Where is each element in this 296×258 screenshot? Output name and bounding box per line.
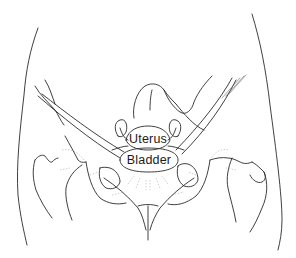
pelvic-floor-texture: [128, 176, 168, 190]
right-obturator-foramen: [177, 164, 198, 187]
bladder-label: Bladder: [127, 153, 172, 167]
right-femur-shaft-inner: [227, 158, 236, 222]
body-outline-right: [252, 14, 282, 250]
right-femur-shaft-outer: [250, 172, 267, 232]
left-femur-shaft-outer: [33, 160, 52, 218]
body-outline-left: [17, 28, 38, 245]
left-femur-head-outline: [35, 155, 58, 162]
right-sacroiliac-texture: [172, 149, 236, 195]
left-ovary: [115, 120, 127, 137]
sigmoid-loop: [164, 76, 212, 113]
pelvis-illustration: Uterus Bladder: [0, 0, 296, 258]
left-femur-shaft-inner: [66, 165, 82, 220]
left-pelvic-floor: [104, 178, 146, 230]
colon-fold: [150, 90, 152, 110]
left-obturator-foramen: [99, 167, 120, 189]
bowel-right: [176, 104, 204, 130]
left-ilium-wing: [65, 136, 86, 162]
right-ligament-fibers: [222, 75, 246, 98]
uterus-label: Uterus: [129, 132, 167, 146]
right-pelvic-floor: [150, 178, 194, 230]
right-ovary: [169, 120, 181, 137]
right-ilium: [250, 162, 265, 183]
